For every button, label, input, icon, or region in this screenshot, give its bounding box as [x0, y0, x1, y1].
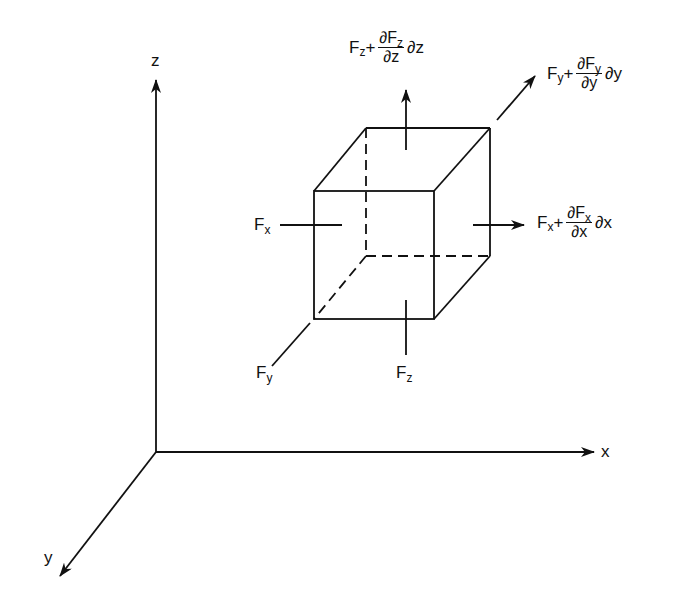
force-fz-in-label: Fz: [396, 364, 412, 381]
y-axis-label: y: [44, 549, 53, 566]
cube-edge: [434, 128, 490, 191]
force-fy-out-arrow: [497, 76, 535, 120]
force-fy-out-label: Fy+ ∂Fy ∂y ∂y: [547, 56, 622, 91]
cube-edge: [314, 128, 366, 191]
cube-hidden-edge: [314, 256, 366, 319]
fraction: ∂Fz ∂z: [378, 30, 404, 65]
y-axis: [60, 452, 156, 576]
fraction: ∂Fy ∂y: [576, 56, 602, 91]
fraction: ∂Fx ∂x: [566, 205, 592, 240]
force-fy-in-line: [272, 323, 310, 366]
x-axis-label: x: [601, 443, 610, 460]
cube-front-face: [314, 191, 434, 319]
force-fx-out-label: Fx+ ∂Fx ∂x ∂x: [537, 205, 612, 240]
force-fx-in-label: Fx: [254, 216, 270, 233]
force-fz-out-label: Fz+ ∂Fz ∂z ∂z: [349, 30, 424, 65]
cube-edge: [434, 256, 490, 319]
force-fy-in-label: Fy: [256, 364, 272, 381]
z-axis-label: z: [151, 52, 160, 69]
